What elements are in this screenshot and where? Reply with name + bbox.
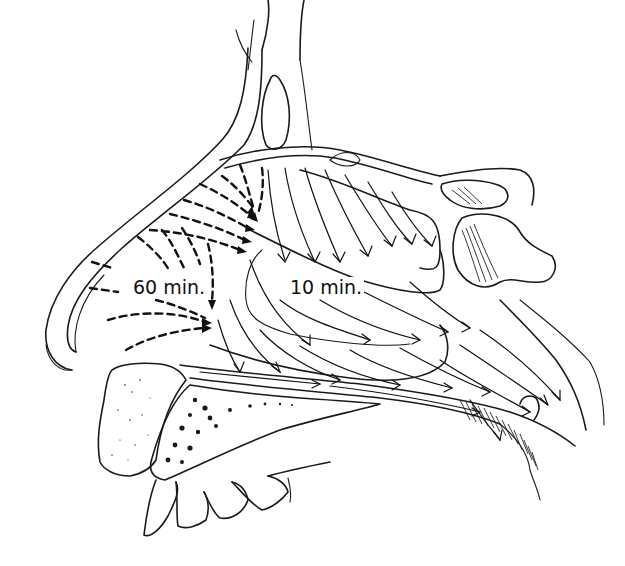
label-10-min: 10 min. [288, 277, 364, 297]
palate [151, 385, 380, 480]
nasal-bone-outline [46, 48, 262, 370]
label-60-min: 60 min. [131, 277, 207, 297]
anterior-maxilla [98, 363, 186, 476]
bone-stipple [111, 379, 150, 460]
palate-marrow-dots [166, 398, 293, 464]
solid-flow-arrows [200, 168, 560, 440]
solid-arrowheads [234, 234, 560, 440]
teeth [144, 462, 330, 536]
dashed-flow-arrows [90, 165, 263, 350]
sphenoid-region [440, 168, 555, 286]
cribriform-roof [220, 60, 440, 184]
